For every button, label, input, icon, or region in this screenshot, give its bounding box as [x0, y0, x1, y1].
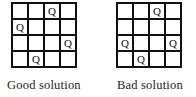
cell [149, 19, 165, 35]
cell [44, 51, 60, 67]
cell [28, 19, 44, 35]
cell [149, 35, 165, 51]
queen-cell: Q [44, 3, 60, 19]
bad-solution-board: Q Q Q Q [116, 2, 182, 68]
cell [44, 19, 60, 35]
queen-cell: Q [117, 35, 133, 51]
cell [165, 51, 181, 67]
bad-solution-caption: Bad solution [117, 78, 183, 93]
cell [165, 3, 181, 19]
good-solution-board: Q Q Q Q [11, 2, 77, 68]
cell [28, 3, 44, 19]
cell [44, 35, 60, 51]
queen-cell: Q [12, 19, 28, 35]
cell [60, 3, 76, 19]
cell [117, 19, 133, 35]
cell [12, 51, 28, 67]
cell [117, 3, 133, 19]
cell [117, 51, 133, 67]
cell [149, 51, 165, 67]
queen-cell: Q [60, 35, 76, 51]
cell [133, 35, 149, 51]
cell [60, 51, 76, 67]
cell [12, 3, 28, 19]
queen-cell: Q [133, 51, 149, 67]
queen-cell: Q [149, 3, 165, 19]
queen-cell: Q [165, 35, 181, 51]
cell [133, 3, 149, 19]
cell [133, 19, 149, 35]
cell [12, 35, 28, 51]
queen-cell: Q [28, 51, 44, 67]
cell [165, 19, 181, 35]
cell [28, 35, 44, 51]
cell [60, 19, 76, 35]
good-solution-caption: Good solution [7, 78, 81, 93]
